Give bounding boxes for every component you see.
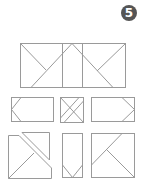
assembled-figure <box>21 44 126 88</box>
piece-6-diagonal-square <box>92 134 135 178</box>
piece-2-x-square <box>61 98 84 123</box>
puzzle-diagram <box>0 0 141 189</box>
piece-4-split-square <box>9 133 52 179</box>
piece-3-right-chevron <box>92 98 135 122</box>
piece-1-left-chevron <box>12 98 54 122</box>
piece-5-tall-v <box>63 134 83 178</box>
